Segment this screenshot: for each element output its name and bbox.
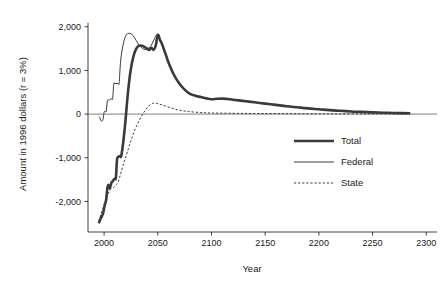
chart-figure: Amount in 1996 dollars (r = 3%) 2,0001,0… <box>0 0 445 283</box>
legend-label-state: State <box>341 177 363 188</box>
y-axis-title-label: Amount in 1996 dollars (r = 3%) <box>17 57 28 191</box>
x-tick-label: 2250 <box>363 238 383 248</box>
x-tick-label: 2100 <box>201 238 221 248</box>
y-axis-title: Amount in 1996 dollars (r = 3%) <box>17 57 28 191</box>
y-axis-ticks: 2,0001,0000-1,000-2,000 <box>55 22 88 207</box>
y-tick-label: 1,000 <box>58 66 81 76</box>
x-tick-label: 2000 <box>94 238 114 248</box>
chart-legend: TotalFederalState <box>294 135 373 188</box>
legend-label-federal: Federal <box>341 156 373 167</box>
x-tick-label: 2200 <box>309 238 329 248</box>
y-tick-label: -2,000 <box>55 197 81 207</box>
legend-label-total: Total <box>341 135 361 146</box>
series-line-total <box>99 35 410 223</box>
y-tick-label: 2,000 <box>58 22 81 32</box>
x-axis-ticks: 2000205021002150220022502300 <box>94 232 436 248</box>
y-tick-label: 0 <box>76 109 81 119</box>
x-tick-label: 2300 <box>416 238 436 248</box>
line-chart-svg: Amount in 1996 dollars (r = 3%) 2,0001,0… <box>0 0 445 283</box>
x-tick-label: 2050 <box>148 238 168 248</box>
x-axis-title-label: Year <box>242 263 261 274</box>
x-tick-label: 2150 <box>255 238 275 248</box>
y-tick-label: -1,000 <box>55 153 81 163</box>
